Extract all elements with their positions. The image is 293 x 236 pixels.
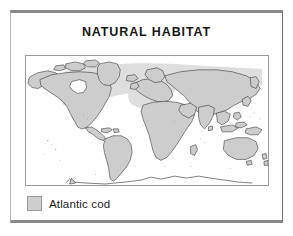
land-tasmania [246, 160, 252, 165]
map-legend: Atlantic cod [27, 196, 110, 211]
legend-label-atlantic-cod: Atlantic cod [49, 198, 110, 210]
land-caribbean-2 [113, 129, 119, 133]
world-map-svg [26, 56, 268, 185]
legend-swatch-atlantic-cod [27, 196, 42, 211]
figure-panel: NATURAL HABITAT [10, 10, 283, 223]
world-map-container [25, 55, 269, 186]
page-title: NATURAL HABITAT [11, 25, 282, 39]
land-new-zealand-2 [264, 160, 268, 165]
land-sri-lanka [208, 126, 212, 131]
land-new-zealand-1 [262, 153, 267, 159]
